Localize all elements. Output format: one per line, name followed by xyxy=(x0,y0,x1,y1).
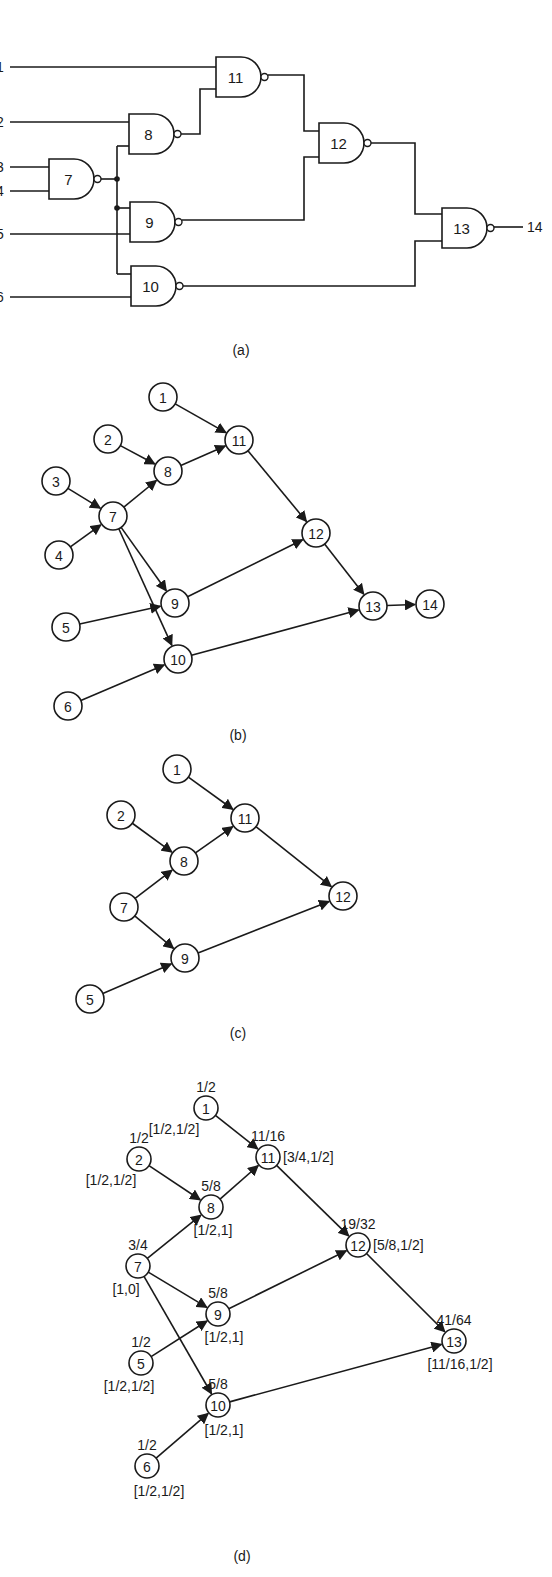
node-label: 13 xyxy=(446,1334,462,1350)
graph-node-7: 7 xyxy=(99,502,127,530)
node-probability: 5/8 xyxy=(208,1376,228,1392)
edge-5-to-9 xyxy=(103,964,171,994)
node-label: 11 xyxy=(232,433,247,449)
graph-node-9: 9 xyxy=(161,589,189,617)
graph-node-11: 1111/16[3/4,1/2] xyxy=(251,1128,334,1169)
node-probability: 1/2 xyxy=(129,1130,149,1146)
graph-node-2: 2 xyxy=(94,425,122,453)
graph-node-8: 85/8[1/2,1] xyxy=(194,1178,233,1238)
nand-gate-12: 12 xyxy=(319,123,371,163)
node-label: 6 xyxy=(64,699,72,715)
node-probability: 1/2 xyxy=(131,1334,151,1350)
edge-7-to-9 xyxy=(135,916,174,948)
gate-label: 8 xyxy=(144,126,152,143)
edge-12-to-13 xyxy=(325,544,364,594)
edge-8-to-11 xyxy=(220,1166,258,1200)
node-label: 9 xyxy=(214,1307,222,1323)
inverter-bubble xyxy=(261,74,268,81)
edge-2-to-8 xyxy=(132,823,172,852)
input-label-4: 4 xyxy=(0,183,4,199)
edge-13-to-14 xyxy=(387,605,415,606)
graph-node-1: 1 xyxy=(149,383,177,411)
graph-node-12: 12 xyxy=(302,519,330,547)
edge-8-to-11 xyxy=(195,827,232,853)
node-label: 2 xyxy=(117,808,125,824)
panel-a-caption: (a) xyxy=(232,342,249,358)
graph-node-12: 1219/32[5/8,1/2] xyxy=(340,1216,423,1257)
graph-node-12: 12 xyxy=(329,882,357,910)
panel-c-subgraph: 1211871295 (c) xyxy=(76,755,357,1041)
node-label: 2 xyxy=(104,432,112,448)
edge-11-to-12 xyxy=(277,1165,349,1236)
node-probability: 1/2 xyxy=(196,1079,216,1095)
node-label: 11 xyxy=(261,1150,276,1166)
node-probability: 11/16 xyxy=(251,1128,285,1144)
node-interval: [1/2,1/2] xyxy=(86,1172,137,1188)
edge-9-to-12 xyxy=(188,540,303,597)
node-interval: [1/2,1/2] xyxy=(104,1378,155,1394)
nand-gate-9: 9 xyxy=(130,202,182,242)
graph-node-14: 14 xyxy=(416,590,444,618)
edge-5-to-9 xyxy=(80,606,161,624)
gate-label: 7 xyxy=(64,171,72,188)
node-probability: 5/8 xyxy=(201,1178,221,1194)
junction-dot xyxy=(114,205,120,211)
node-label: 7 xyxy=(134,1259,142,1275)
node-label: 5 xyxy=(62,620,70,636)
node-interval: [1/2,1] xyxy=(205,1422,244,1438)
node-label: 11 xyxy=(238,811,253,827)
gate-label: 12 xyxy=(330,135,347,152)
node-probability: 5/8 xyxy=(208,1285,228,1301)
panel-b-graph: 1234567891011121314 (b) xyxy=(42,383,444,743)
gate-label: 11 xyxy=(228,69,244,86)
edge-7-to-8 xyxy=(124,480,157,507)
graph-node-9: 9 xyxy=(171,944,199,972)
inverter-bubble xyxy=(174,131,181,138)
node-interval: [1,0] xyxy=(112,1281,139,1297)
input-label-1: 1 xyxy=(0,59,4,75)
gate-label: 13 xyxy=(453,220,470,237)
graph-node-5: 51/2[1/2,1/2] xyxy=(104,1334,155,1394)
node-label: 9 xyxy=(181,951,189,967)
node-label: 14 xyxy=(422,597,438,613)
edge-3-to-7 xyxy=(68,488,100,508)
graph-node-2: 2 xyxy=(107,801,135,829)
panel-b-nodes: 1234567891011121314 xyxy=(42,383,444,720)
node-label: 6 xyxy=(143,1459,151,1475)
node-label: 8 xyxy=(180,854,188,870)
node-label: 1 xyxy=(202,1101,210,1117)
circuit-output-label: 14 xyxy=(527,219,543,235)
nand-gate-13: 13 xyxy=(442,208,494,248)
graph-node-2: 21/2[1/2,1/2] xyxy=(86,1130,151,1188)
node-label: 7 xyxy=(120,900,128,916)
node-label: 8 xyxy=(207,1200,215,1216)
graph-node-7: 7 xyxy=(110,893,138,921)
node-label: 10 xyxy=(210,1398,226,1414)
inverter-bubble xyxy=(364,140,371,147)
node-probability: 3/4 xyxy=(128,1237,148,1253)
node-label: 5 xyxy=(137,1356,145,1372)
graph-node-1: 1 xyxy=(163,755,191,783)
panel-c-nodes: 1211871295 xyxy=(76,755,357,1013)
node-label: 7 xyxy=(109,509,117,525)
node-label: 1 xyxy=(159,390,167,406)
edge-2-to-8 xyxy=(149,1166,200,1200)
node-label: 12 xyxy=(335,889,351,905)
node-probability: 19/32 xyxy=(340,1216,375,1232)
edge-8-to-11 xyxy=(181,446,225,465)
graph-node-10: 105/8[1/2,1] xyxy=(205,1376,244,1438)
gate-label: 10 xyxy=(142,278,159,295)
node-interval: [1/2,1/2] xyxy=(149,1121,200,1137)
graph-node-10: 10 xyxy=(164,645,192,673)
edge-4-to-7 xyxy=(70,525,100,547)
edge-9-to-12 xyxy=(198,901,329,952)
node-probability: 1/2 xyxy=(137,1437,157,1453)
node-interval: [5/8,1/2] xyxy=(373,1237,424,1253)
edge-7-to-9 xyxy=(148,1272,207,1307)
edge-6-to-10 xyxy=(81,665,164,701)
edge-6-to-10 xyxy=(156,1413,208,1458)
panel-b-caption: (b) xyxy=(229,727,246,743)
edge-10-to-13 xyxy=(230,1344,442,1401)
panel-d-annotated-graph: 11/2[1/2,1/2]21/2[1/2,1/2]1111/16[3/4,1/… xyxy=(86,1079,493,1564)
inverter-bubble xyxy=(176,283,183,290)
